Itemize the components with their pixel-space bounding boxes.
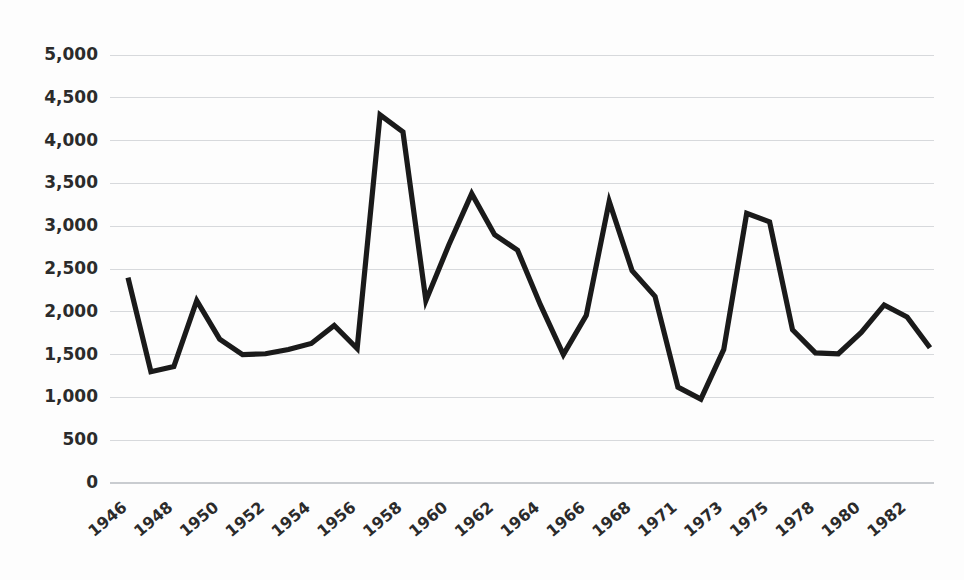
chart-canvas: 5,0004,5004,0003,5003,0002,5002,0001,500… <box>0 0 964 580</box>
x-axis-tick-label: 1962 <box>451 498 497 541</box>
x-axis-tick-labels: 1946194819501952195419561958196019621964… <box>84 498 909 541</box>
x-axis-tick-label: 1975 <box>726 498 772 541</box>
x-axis-tick-label: 1954 <box>268 498 314 541</box>
y-axis-tick-label: 3,500 <box>44 172 98 192</box>
y-axis-tick-label: 3,000 <box>44 215 98 235</box>
y-axis-tick-label: 4,500 <box>44 87 98 107</box>
y-axis-tick-label: 2,500 <box>44 258 98 278</box>
x-axis-tick-label: 1978 <box>772 498 818 541</box>
x-axis-tick-label: 1948 <box>130 498 176 541</box>
y-axis-tick-label: 500 <box>63 429 99 449</box>
x-axis-tick-label: 1950 <box>176 498 222 541</box>
x-axis-tick-label: 1964 <box>497 498 543 541</box>
y-axis-tick-label: 5,000 <box>44 44 98 64</box>
x-axis-tick-label: 1952 <box>222 498 268 541</box>
line-chart: 5,0004,5004,0003,5003,0002,5002,0001,500… <box>0 0 964 580</box>
x-axis-tick-label: 1980 <box>818 498 864 541</box>
x-axis-tick-label: 1956 <box>313 498 359 541</box>
y-axis-tick-label: 1,500 <box>44 344 98 364</box>
y-axis-tick-labels: 5,0004,5004,0003,5003,0002,5002,0001,500… <box>44 44 98 492</box>
x-axis-tick-label: 1973 <box>680 498 726 541</box>
x-axis-tick-label: 1946 <box>84 498 130 541</box>
y-axis-tick-label: 0 <box>86 472 98 492</box>
x-axis-tick-label: 1960 <box>405 498 451 541</box>
y-axis-tick-label: 2,000 <box>44 301 98 321</box>
y-axis-tick-label: 4,000 <box>44 130 98 150</box>
x-axis-tick-label: 1968 <box>588 498 634 541</box>
data-series-line <box>128 115 930 399</box>
gridline-group <box>110 55 934 483</box>
y-axis-tick-label: 1,000 <box>44 386 98 406</box>
x-axis-tick-label: 1982 <box>863 498 909 541</box>
x-axis-tick-label: 1958 <box>359 498 405 541</box>
x-axis-tick-label: 1966 <box>543 498 589 541</box>
x-axis-tick-label: 1971 <box>634 498 680 541</box>
